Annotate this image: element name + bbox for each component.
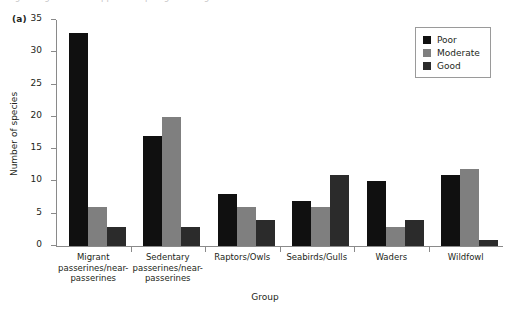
y-axis-tick: 35 [51,19,56,20]
bar [479,240,498,246]
y-axis-tick: 5 [51,213,56,214]
y-axis-tick-label: 5 [36,207,42,217]
cropped-caption-strip: Figure legend text cropped at top edge o… [0,0,530,7]
bar [292,201,311,246]
bar-group [143,20,200,246]
y-axis-tick: 25 [51,84,56,85]
bar [441,175,460,246]
bar [367,181,386,246]
y-axis-tick-label: 10 [31,174,42,184]
legend: PoorModerateGood [415,27,491,78]
legend-item: Good [423,59,480,72]
y-axis-tick: 20 [51,116,56,117]
bar-group [69,20,126,246]
x-axis-category-label: Wildfowl [429,252,504,263]
y-axis-title: Number of species [8,20,20,247]
y-axis-tick: 0 [51,245,56,246]
legend-item-label: Poor [437,35,457,45]
bar-group [292,20,349,246]
y-axis-tick-label: 25 [31,78,42,88]
bar [218,194,237,246]
bar [181,227,200,246]
bar [107,227,126,246]
legend-item: Poor [423,33,480,46]
bar [460,169,479,246]
x-axis-category-label-line: Seabirds/Gulls [280,252,355,263]
bar [88,207,107,246]
bar-group [218,20,275,246]
y-axis-line [56,20,57,247]
y-axis-tick-label: 30 [31,45,42,55]
y-axis-tick-label: 20 [31,110,42,120]
legend-swatch-icon [423,49,431,57]
bar [311,207,330,246]
x-axis-category-label: Migrantpasserines/near-passerines [56,252,131,284]
x-axis-category-label: Waders [354,252,429,263]
y-axis-tick: 15 [51,148,56,149]
bar [405,220,424,246]
x-axis-category-label: Raptors/Owls [205,252,280,263]
x-axis-category-label-line: Sedentary [131,252,206,263]
bar [256,220,275,246]
y-axis-tick: 30 [51,51,56,52]
legend-item: Moderate [423,46,480,59]
x-axis-category-label-line: Wildfowl [429,252,504,263]
x-axis-category-label-line: passerines [131,273,206,284]
bar [69,33,88,246]
y-axis-tick: 10 [51,180,56,181]
legend-item-label: Good [437,61,461,71]
y-axis-tick-label: 35 [31,13,42,23]
cropped-caption-text: Figure legend text cropped at top edge o… [8,0,214,2]
bar [386,227,405,246]
x-axis-category-label-line: passerines/near- [56,263,131,274]
bar [143,136,162,246]
x-axis-category-label: Seabirds/Gulls [280,252,355,263]
x-axis-category-label-line: Migrant [56,252,131,263]
y-axis-title-text: Number of species [9,91,19,175]
x-axis-title: Group [0,292,530,302]
y-axis-tick-label: 15 [31,142,42,152]
bar [237,207,256,246]
x-axis-category-label-line: Raptors/Owls [205,252,280,263]
x-axis-category-label-line: passerines/near- [131,263,206,274]
x-axis-category-label-line: passerines [56,273,131,284]
legend-swatch-icon [423,36,431,44]
x-axis-category-label: Sedentarypasserines/near-passerines [131,252,206,284]
legend-swatch-icon [423,62,431,70]
bar [162,117,181,246]
x-axis-category-label-line: Waders [354,252,429,263]
y-axis-tick-label: 0 [36,239,42,249]
bar [330,175,349,246]
legend-item-label: Moderate [437,48,480,58]
